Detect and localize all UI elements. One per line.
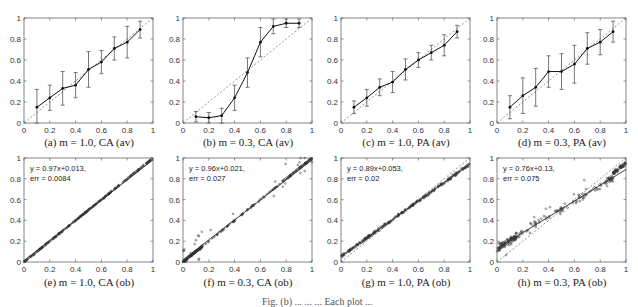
x-tick-label: 1 <box>310 265 315 274</box>
x-tick-label: 0.4 <box>229 265 241 274</box>
x-tick-label: 0.2 <box>203 126 215 135</box>
x-tick-label: 0.4 <box>543 126 555 135</box>
y-tick-label: 0 <box>176 119 181 128</box>
y-tick-label: 0.4 <box>483 77 495 86</box>
y-tick-label: 0.6 <box>483 196 495 205</box>
caption-e: (e) m = 1.0, CA (ob) <box>14 276 164 288</box>
y-tick-label: 0 <box>490 119 495 128</box>
x-tick-label: 0 <box>22 126 27 135</box>
y-tick-label: 1 <box>17 154 22 163</box>
y-tick-label: 0.4 <box>327 77 339 86</box>
plot-b: 00.20.40.60.8100.20.40.60.81 <box>183 18 312 123</box>
x-tick-label: 0.8 <box>439 265 451 274</box>
plot-c: 00.20.40.60.8100.20.40.60.81 <box>341 18 470 123</box>
x-tick-label: 1 <box>624 265 629 274</box>
x-tick-label: 0.8 <box>122 126 134 135</box>
data-point <box>391 81 394 84</box>
data-point <box>285 22 288 25</box>
y-tick-label: 0 <box>490 258 495 267</box>
x-tick-label: 0.2 <box>361 265 373 274</box>
x-tick-label: 0 <box>339 126 344 135</box>
x-tick-label: 0.4 <box>387 126 399 135</box>
y-tick-label: 1 <box>334 154 339 163</box>
x-tick-label: 0.8 <box>595 126 607 135</box>
data-point <box>547 70 550 73</box>
plot-f: 00.20.40.60.8100.20.40.60.81y = 0.96x+0.… <box>183 158 312 262</box>
y-tick-label: 0.8 <box>169 175 181 184</box>
y-tick-label: 0.6 <box>327 196 339 205</box>
plot-e-canvas: 00.20.40.60.8100.20.40.60.81y = 0.97x+0.… <box>24 158 153 262</box>
plot-h-canvas: 00.20.40.60.8100.20.40.60.81y = 0.76x+0.… <box>497 158 626 262</box>
data-point <box>560 70 563 73</box>
y-tick-label: 0.2 <box>169 98 181 107</box>
data-point <box>509 106 512 109</box>
plot-a: 00.20.40.60.8100.20.40.60.81 <box>24 18 153 123</box>
data-point <box>195 115 198 118</box>
y-tick-label: 1 <box>334 14 339 23</box>
x-tick-label: 1 <box>151 126 156 135</box>
x-tick-label: 0.4 <box>387 265 399 274</box>
x-tick-label: 0.8 <box>122 265 134 274</box>
caption-b: (b) m = 0.3, CA (av) <box>173 136 323 148</box>
data-point <box>534 86 537 89</box>
plot-d: 00.20.40.60.8100.20.40.60.81 <box>497 18 626 123</box>
y-tick-label: 0 <box>17 258 22 267</box>
y-tick-label: 0.8 <box>327 175 339 184</box>
data-point <box>443 44 446 47</box>
x-tick-label: 0.4 <box>543 265 555 274</box>
fit-equation: y = 0.96x+0.021, <box>189 164 245 173</box>
plot-b-canvas: 00.20.40.60.8100.20.40.60.81 <box>183 18 312 123</box>
y-tick-label: 1 <box>176 14 181 23</box>
caption-f: (f) m = 0.3, CA (ob) <box>173 276 323 288</box>
y-tick-label: 0.6 <box>169 196 181 205</box>
plot-f-canvas: 00.20.40.60.8100.20.40.60.81y = 0.96x+0.… <box>183 158 312 262</box>
caption-h: (h) m = 0.3, PA (ob) <box>487 276 637 288</box>
data-point <box>599 41 602 44</box>
plot-a-canvas: 00.20.40.60.8100.20.40.60.81 <box>24 18 153 123</box>
x-tick-label: 0 <box>495 265 500 274</box>
data-point <box>220 114 223 117</box>
data-point <box>246 71 249 74</box>
fit-error: err = 0.075 <box>503 174 539 183</box>
x-tick-label: 0.6 <box>569 126 581 135</box>
y-tick-label: 0 <box>334 119 339 128</box>
x-tick-label: 0.6 <box>255 265 267 274</box>
y-tick-label: 0.8 <box>327 35 339 44</box>
y-tick-label: 0.8 <box>483 35 495 44</box>
y-tick-label: 0 <box>334 258 339 267</box>
x-tick-label: 0.6 <box>413 265 425 274</box>
data-point <box>74 84 77 87</box>
data-point <box>36 106 39 109</box>
fit-equation: y = 0.97x+0.013, <box>30 164 86 173</box>
y-tick-label: 1 <box>176 154 181 163</box>
data-point <box>233 96 236 99</box>
y-tick-label: 0.4 <box>169 77 181 86</box>
x-tick-label: 0.6 <box>569 265 581 274</box>
data-point <box>100 61 103 64</box>
y-tick-label: 0.6 <box>483 56 495 65</box>
x-tick-label: 1 <box>151 265 156 274</box>
x-tick-label: 0.2 <box>517 265 529 274</box>
y-tick-label: 0.2 <box>327 98 339 107</box>
cropped-body-text: Fig. (b) ... ... ... Each plot ... <box>262 296 373 307</box>
fit-error: err = 0.02 <box>347 174 379 183</box>
y-tick-label: 1 <box>490 14 495 23</box>
x-tick-label: 0.8 <box>439 126 451 135</box>
y-tick-label: 0.4 <box>169 216 181 225</box>
data-point <box>365 96 368 99</box>
caption-d: (d) m = 0.3, PA (av) <box>487 136 637 148</box>
x-tick-label: 0.6 <box>96 265 108 274</box>
data-point <box>417 59 420 62</box>
x-tick-label: 0.6 <box>96 126 108 135</box>
y-tick-label: 0.2 <box>169 237 181 246</box>
x-tick-label: 0 <box>339 265 344 274</box>
y-tick-label: 0.4 <box>327 216 339 225</box>
data-point <box>586 47 589 50</box>
caption-g: (g) m = 1.0, PA (ob) <box>331 276 481 288</box>
x-tick-label: 0 <box>181 265 186 274</box>
data-point <box>456 30 459 33</box>
fit-equation: y = 0.89x+0.053, <box>347 164 403 173</box>
data-point <box>298 22 301 25</box>
x-tick-label: 0.2 <box>361 126 373 135</box>
y-tick-label: 0.2 <box>10 98 22 107</box>
